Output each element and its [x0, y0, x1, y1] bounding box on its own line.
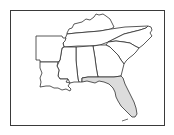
- florida-keys: [122, 119, 128, 121]
- state-florida[interactable]: [82, 76, 137, 117]
- southeast-us-map: [0, 0, 174, 135]
